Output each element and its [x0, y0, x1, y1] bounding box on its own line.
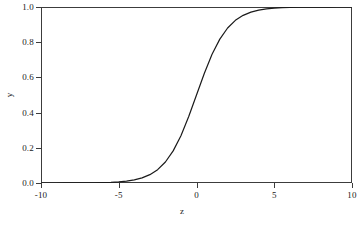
- y-tick-mark: [36, 7, 41, 8]
- x-tick-label: -5: [115, 190, 123, 200]
- x-tick-mark: [274, 183, 275, 188]
- y-tick-mark: [36, 148, 41, 149]
- y-tick-label: 0.2: [3, 143, 34, 153]
- y-tick-label: 0.6: [3, 72, 34, 82]
- y-tick-mark: [36, 183, 41, 184]
- sigmoid-curve-path: [41, 7, 352, 183]
- x-tick-label: -10: [35, 190, 48, 200]
- x-axis-label: z: [0, 206, 364, 216]
- y-tick-label: 0.0: [3, 178, 34, 188]
- x-tick-mark: [119, 183, 120, 188]
- y-tick-label: 1.0: [3, 2, 34, 12]
- x-tick-label: 0: [194, 190, 199, 200]
- y-tick-label: 0.8: [3, 37, 34, 47]
- y-axis-label: y: [4, 88, 14, 102]
- x-tick-mark: [197, 183, 198, 188]
- y-tick-mark: [36, 113, 41, 114]
- x-tick-label: 5: [272, 190, 277, 200]
- x-tick-label: 10: [347, 190, 356, 200]
- sigmoid-plot-figure: -10-50510 0.00.20.40.60.81.0 z y: [0, 0, 364, 229]
- y-tick-mark: [36, 42, 41, 43]
- y-tick-mark: [36, 77, 41, 78]
- x-tick-mark: [41, 183, 42, 188]
- x-tick-mark: [352, 183, 353, 188]
- sigmoid-curve: [41, 7, 352, 183]
- y-tick-label: 0.4: [3, 108, 34, 118]
